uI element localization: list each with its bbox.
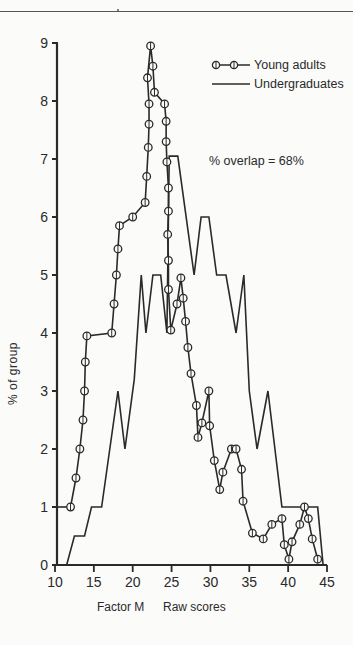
x-tick-label: 20 [125,574,141,590]
legend-label: Young adults [254,58,326,72]
x-tick-label: 25 [164,574,180,590]
legend-item-young-adults: Young adults [210,55,344,74]
y-tick-label: 5 [40,267,48,283]
x-tick-label: 10 [47,574,63,590]
y-tick-label: 0 [40,557,48,573]
x-tick-label: 40 [280,574,296,590]
y-tick-label: 9 [40,35,48,51]
legend-label: Undergraduates [254,77,344,91]
y-tick-label: 4 [40,325,48,341]
series-young-adults [57,42,321,563]
y-tick-label: 3 [40,383,48,399]
y-axis-label: % of group [6,325,20,405]
x-tick-label: 35 [241,574,257,590]
x-axis-label-scores: Raw scores [163,600,226,614]
plain-line-marker-icon [210,78,252,90]
legend: Young adults Undergraduates [210,55,344,93]
undergraduates-line [67,156,323,565]
series-undergraduates [67,156,323,565]
y-tick-label: 6 [40,209,48,225]
x-axis-label-factor: Factor M [97,600,144,614]
x-tick-label: 15 [86,574,102,590]
y-tick-label: 1 [40,499,48,515]
y-tick-label: 8 [40,93,48,109]
y-tick-label: 2 [40,441,48,457]
line-chart: 01234567891015202530354045 [0,0,353,645]
overlap-annotation: % overlap = 68% [209,154,304,168]
young-adults-line [71,46,318,559]
y-tick-label: 7 [40,151,48,167]
x-tick-label: 30 [203,574,219,590]
legend-item-undergraduates: Undergraduates [210,74,344,93]
circle-line-marker-icon [210,59,252,71]
x-tick-label: 45 [319,574,335,590]
